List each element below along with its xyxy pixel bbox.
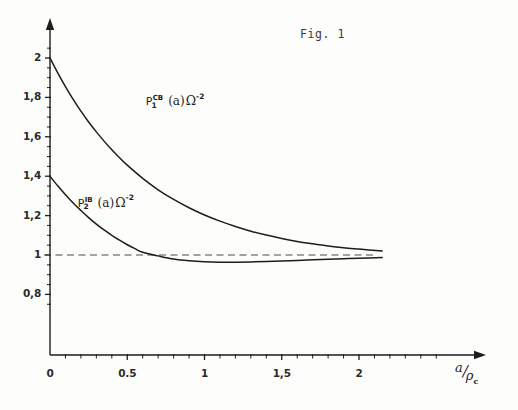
curve-label-p1-cb: P1CB(a)Ω-2	[146, 93, 205, 108]
x-axis-title: a/ρc	[455, 362, 480, 382]
y-tick-label-0: 0,8	[0, 287, 41, 299]
curve2-exponent: -2	[126, 193, 134, 202]
figure-root: Fig. 1 0,811,21,41,61,82 00.511,52 P1CB(…	[0, 0, 518, 410]
x-axis-title-denominator: ρc	[466, 368, 479, 383]
x-axis-arrowhead	[474, 351, 486, 359]
x-tick-label-1: 0.5	[107, 367, 147, 379]
x-tick-label-2: 1	[185, 367, 225, 379]
x-tick-label-0: 0	[30, 367, 70, 379]
curves-group	[50, 58, 382, 262]
curve2-superscript: IB	[85, 196, 93, 204]
y-tick-label-1: 1	[0, 248, 41, 260]
axes-group	[46, 18, 486, 359]
x-axis-title-numerator: a	[455, 360, 463, 375]
y-tick-label-4: 1,6	[0, 130, 41, 142]
curve1-argument: (a)	[168, 94, 185, 108]
y-tick-label-3: 1,4	[0, 169, 41, 181]
curve2-omega: Ω	[115, 195, 125, 210]
curve1-exponent: -2	[196, 92, 204, 101]
curve1-omega: Ω	[186, 93, 196, 108]
y-tick-label-2: 1,2	[0, 209, 41, 221]
curve2-argument: (a)	[98, 196, 115, 210]
curve-label-p2-ib: P2IB(a)Ω-2	[78, 195, 134, 210]
figure-caption: Fig. 1	[300, 27, 345, 41]
x-axis-title-denominator-subscript: c	[473, 376, 478, 386]
curve1-subscript: 1	[151, 101, 156, 110]
x-tick-label-3: 1,5	[262, 367, 302, 379]
curve-P1_CB	[50, 58, 382, 251]
y-tick-label-5: 1,8	[0, 90, 41, 102]
x-tick-label-4: 2	[339, 367, 379, 379]
y-tick-label-6: 2	[0, 51, 41, 63]
y-axis-arrowhead	[46, 18, 54, 30]
curve1-superscript: CB	[153, 94, 163, 102]
